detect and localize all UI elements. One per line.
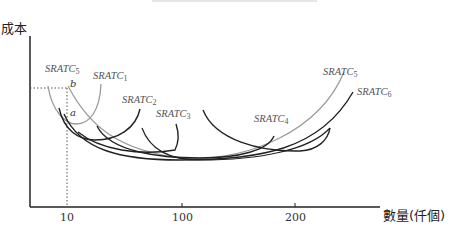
label-sratc5-right: SRATC5 [323, 66, 358, 79]
x-axis-label: 數量(仟個) [383, 205, 445, 224]
label-sratc5-left: SRATC5 [45, 63, 80, 76]
label-sratc1: SRATC1 [93, 70, 128, 83]
point-a: a [70, 107, 76, 118]
x-tick-10: 10 [60, 211, 74, 224]
x-tick-100: 100 [172, 211, 193, 224]
x-tick-200: 200 [285, 211, 306, 224]
curve-sratc1 [48, 84, 101, 124]
label-sratc6: SRATC6 [357, 86, 392, 99]
label-sratc4: SRATC4 [254, 113, 289, 126]
label-sratc2: SRATC2 [122, 94, 157, 107]
point-b: b [70, 78, 76, 89]
label-sratc3: SRATC3 [156, 108, 191, 121]
y-axis-label: 成本 [1, 18, 27, 37]
